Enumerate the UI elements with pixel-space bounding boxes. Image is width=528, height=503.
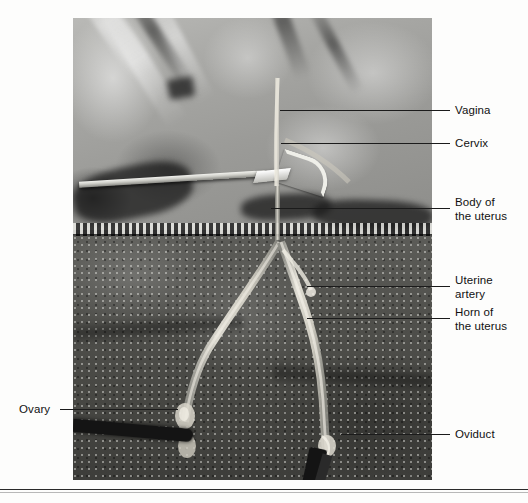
- label-uterine-artery: Uterine artery: [455, 273, 493, 301]
- footer-rule: [0, 489, 528, 490]
- leader-line-vagina: [280, 110, 450, 111]
- label-oviduct: Oviduct: [455, 427, 495, 441]
- photo-canvas: [73, 18, 432, 480]
- leader-line-uterine-artery: [307, 286, 450, 287]
- label-vagina: Vagina: [455, 103, 491, 117]
- leader-line-oviduct: [341, 434, 450, 435]
- anatomical-photograph: [73, 18, 432, 480]
- label-ovary: Ovary: [19, 402, 50, 416]
- label-cervix: Cervix: [455, 136, 488, 150]
- drape-highlight: [168, 254, 318, 374]
- leader-line-ovary: [60, 409, 178, 410]
- leader-line-cervix: [281, 143, 450, 144]
- figure-root: Vagina Cervix Body of the uterus Uterine…: [0, 0, 528, 503]
- footer-rule-secondary: [0, 492, 528, 493]
- label-horn-of-uterus: Horn of the uterus: [455, 305, 507, 333]
- label-body-of-uterus: Body of the uterus: [455, 195, 507, 223]
- leader-line-horn-of-uterus: [307, 318, 450, 319]
- leader-line-body-of-uterus: [271, 208, 450, 209]
